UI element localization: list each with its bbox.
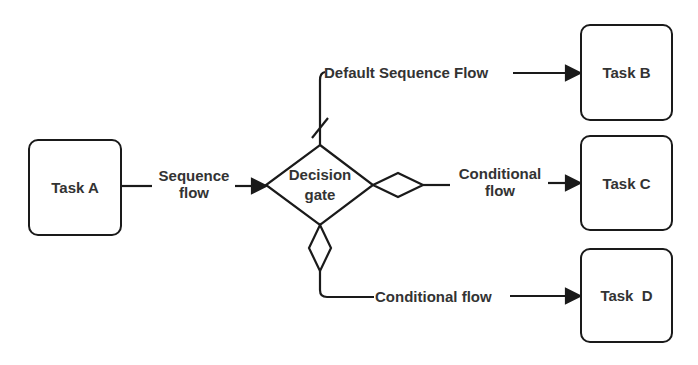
default-sequence-flow-label: Default Sequence Flow <box>324 64 488 81</box>
task-d-label: Task D <box>600 287 652 304</box>
gateway-label-line1: Decision <box>278 166 362 183</box>
task-c-label: Task C <box>602 175 650 192</box>
gateway-label: Decision gate <box>278 166 362 203</box>
conditional-flow-c-label: Conditional flow <box>448 165 552 199</box>
conditional-flow-c-label-line1: Conditional <box>448 165 552 182</box>
default-flow-arrowhead <box>566 66 580 80</box>
conditional-flow-c-arrowhead <box>566 176 580 190</box>
conditional-flow-c-label-line2: flow <box>448 182 552 199</box>
conditional-flow-d-arrowhead <box>566 289 580 303</box>
default-flow-line <box>320 72 325 145</box>
sequence-flow-arrowhead <box>252 179 266 193</box>
sequence-flow-label: Sequence flow <box>150 167 238 201</box>
conditional-diamond-icon <box>373 173 423 197</box>
conditional-diamond-icon-d <box>309 225 331 271</box>
task-c-node[interactable]: Task C <box>580 135 673 231</box>
task-b-node[interactable]: Task B <box>580 24 673 121</box>
sequence-flow-label-line1: Sequence <box>150 167 238 184</box>
task-b-label: Task B <box>602 64 650 81</box>
task-a-label: Task A <box>51 179 99 196</box>
conditional-flow-d-label: Conditional flow <box>375 288 492 305</box>
gateway-label-line2: gate <box>278 186 362 203</box>
task-d-node[interactable]: Task D <box>580 248 673 343</box>
task-a-node[interactable]: Task A <box>28 139 122 236</box>
sequence-flow-label-line2: flow <box>150 184 238 201</box>
